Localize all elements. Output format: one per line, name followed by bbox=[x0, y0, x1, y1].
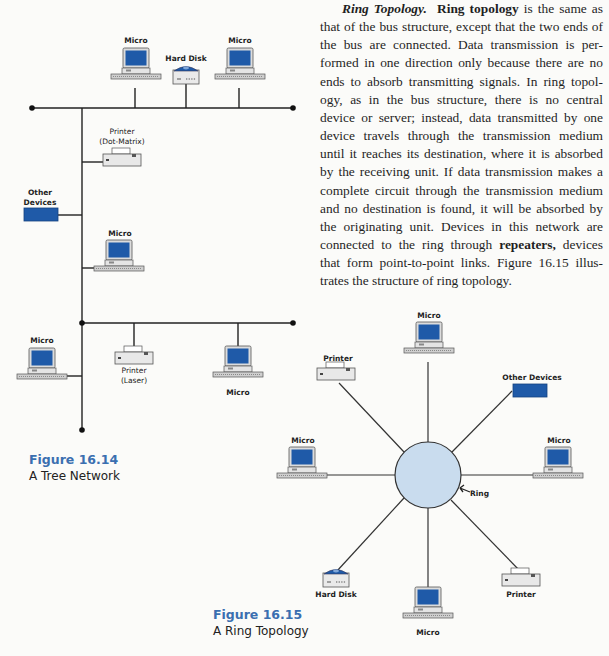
label-micro: Micro bbox=[411, 311, 447, 321]
label-printer-type: (Laser) bbox=[116, 376, 152, 386]
micro-computer-icon bbox=[94, 240, 144, 271]
micro-computer-icon bbox=[215, 48, 265, 79]
printer-icon bbox=[317, 362, 355, 380]
figure-caption-16-14: Figure 16.14 A Tree Network bbox=[29, 452, 120, 484]
figure-title: A Tree Network bbox=[29, 468, 120, 484]
label-micro: Micro bbox=[118, 36, 154, 46]
label-micro: Micro bbox=[541, 436, 577, 446]
label-hard-disk: Hard Disk bbox=[163, 54, 209, 64]
micro-computer-icon bbox=[533, 447, 583, 478]
label-other-devices: Other Devices bbox=[501, 373, 563, 383]
micro-computer-icon bbox=[17, 348, 67, 379]
printer-icon bbox=[502, 568, 540, 586]
label-printer: Printer bbox=[318, 354, 358, 364]
ring-icon bbox=[395, 442, 461, 508]
label-micro: Micro bbox=[222, 36, 258, 46]
figure-caption-16-15: Figure 16.15 A Ring Topology bbox=[213, 607, 309, 639]
micro-computer-icon bbox=[277, 447, 327, 478]
label-printer: Printer bbox=[116, 366, 152, 376]
label-micro: Micro bbox=[285, 436, 321, 446]
figure-number: Figure 16.15 bbox=[213, 607, 309, 623]
label-hard-disk: Hard Disk bbox=[313, 590, 359, 600]
micro-computer-icon bbox=[404, 322, 454, 353]
label-micro: Micro bbox=[410, 628, 446, 638]
network-diagrams bbox=[0, 0, 609, 656]
label-micro: Micro bbox=[220, 388, 256, 398]
label-devices: Devices bbox=[22, 198, 58, 208]
micro-computer-icon bbox=[213, 346, 263, 377]
hard-disk-icon bbox=[323, 570, 349, 588]
figure-number: Figure 16.14 bbox=[29, 452, 120, 468]
label-ring: Ring bbox=[470, 489, 494, 499]
figure-title: A Ring Topology bbox=[213, 623, 309, 639]
label-micro: Micro bbox=[102, 229, 138, 239]
printer-icon bbox=[103, 148, 141, 166]
other-devices-icon bbox=[513, 384, 547, 397]
printer-icon bbox=[115, 346, 153, 364]
micro-computer-icon bbox=[111, 48, 161, 79]
label-printer: Printer bbox=[501, 590, 541, 600]
label-printer: Printer bbox=[102, 127, 142, 137]
other-devices-icon bbox=[24, 208, 58, 221]
micro-computer-icon bbox=[403, 587, 453, 618]
label-other: Other bbox=[22, 188, 58, 198]
label-printer-type: (Dot-Matrix) bbox=[98, 137, 146, 147]
label-micro: Micro bbox=[24, 336, 60, 346]
hard-disk-icon bbox=[173, 67, 199, 85]
